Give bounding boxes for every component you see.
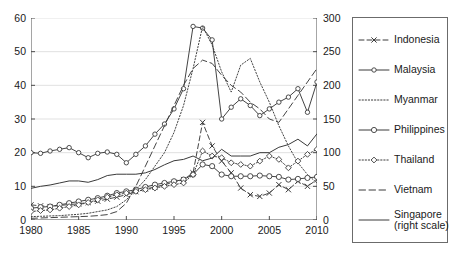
legend-marker-myanmar: [357, 91, 391, 109]
series-marker-philippines: [229, 174, 234, 179]
series-marker-malaysia: [86, 156, 90, 160]
y-axis-right-tick-label: 300: [323, 13, 351, 23]
legend-point: [372, 68, 376, 72]
legend-marker-philippines: [357, 121, 391, 139]
legend-label: Malaysia: [394, 64, 435, 76]
legend-item-myanmar[interactable]: Myanmar: [353, 85, 449, 115]
series-marker-malaysia: [153, 132, 157, 136]
y-axis-right-tick-label: 200: [323, 80, 351, 90]
series-marker-malaysia: [105, 150, 109, 154]
y-axis-left-tick-label: 0: [0, 215, 26, 225]
y-axis-left-tick-label: 50: [0, 46, 26, 56]
series-marker-thailand: [228, 160, 234, 166]
series-marker-indonesia: [210, 143, 215, 148]
legend-label: Singapore(right scale): [394, 209, 449, 231]
legend-label: Indonesia: [394, 34, 440, 46]
legend-item-vietnam[interactable]: Vietnam: [353, 175, 449, 205]
series-marker-malaysia: [239, 97, 243, 101]
series-marker-thailand: [266, 153, 272, 159]
y-axis-right-tick-label: 250: [323, 46, 351, 56]
y-axis-left-tick-label: 60: [0, 13, 26, 23]
y-axis-left-tick-label: 20: [0, 147, 26, 157]
legend-item-malaysia[interactable]: Malaysia: [353, 55, 449, 85]
series-marker-malaysia: [76, 150, 80, 154]
series-marker-philippines: [286, 177, 291, 182]
y-axis-right-tick-label: 150: [323, 114, 351, 124]
series-marker-malaysia: [229, 105, 233, 109]
legend-label: Philippines: [394, 124, 445, 136]
chart-root: IndonesiaMalaysiaMyanmarPhilippinesThail…: [0, 0, 452, 262]
series-marker-malaysia: [191, 24, 195, 28]
legend-item-thailand[interactable]: Thailand: [353, 145, 449, 175]
series-marker-malaysia: [267, 107, 271, 111]
series-marker-malaysia: [134, 152, 138, 156]
series-line-vietnam: [31, 60, 317, 218]
legend-point: [371, 127, 376, 132]
series-marker-philippines: [305, 175, 310, 180]
x-axis-tick-label: 1995: [154, 225, 194, 235]
series-marker-philippines: [267, 174, 272, 179]
legend-label-line2: (right scale): [394, 220, 449, 231]
y-axis-right-tick-label: 50: [323, 181, 351, 191]
y-axis-left-tick-label: 10: [0, 181, 26, 191]
series-marker-thailand: [314, 146, 317, 152]
x-axis-tick-label: 1990: [106, 225, 146, 235]
series-marker-malaysia: [31, 150, 33, 154]
series-marker-philippines: [238, 174, 243, 179]
faint-artifact-text: [105, 1, 345, 9]
x-axis-tick-label: 2005: [249, 225, 289, 235]
series-marker-malaysia: [277, 100, 281, 104]
series-marker-malaysia: [96, 151, 100, 155]
plot-area: [31, 18, 317, 220]
y-axis-left-tick-label: 30: [0, 114, 26, 124]
legend-label: Myanmar: [394, 94, 438, 106]
x-axis-tick-label: 1980: [11, 225, 51, 235]
legend-point: [371, 157, 377, 163]
legend-marker-malaysia: [357, 61, 391, 79]
legend-item-philippines[interactable]: Philippines: [353, 115, 449, 145]
legend-item-indonesia[interactable]: Indonesia: [353, 25, 449, 55]
series-marker-malaysia: [286, 95, 290, 99]
series-marker-malaysia: [115, 152, 119, 156]
series-marker-malaysia: [248, 103, 252, 107]
legend-marker-thailand: [357, 151, 391, 169]
legend-label: Vietnam: [394, 184, 432, 196]
legend-marker-singapore: [357, 211, 391, 229]
series-marker-indonesia: [286, 187, 291, 192]
series-marker-malaysia: [258, 113, 262, 117]
series-marker-indonesia: [267, 190, 272, 195]
series-marker-malaysia: [315, 80, 317, 84]
series-marker-malaysia: [143, 144, 147, 148]
x-axis-tick-label: 2010: [297, 225, 337, 235]
series-line-malaysia: [31, 26, 317, 162]
series-marker-malaysia: [38, 151, 42, 155]
y-axis-left-tick-label: 40: [0, 80, 26, 90]
series-marker-thailand: [257, 158, 263, 164]
series-marker-philippines: [257, 173, 262, 178]
y-axis-right-tick-label: 100: [323, 147, 351, 157]
series-marker-malaysia: [57, 147, 61, 151]
chart-canvas: [31, 18, 317, 220]
series-marker-malaysia: [124, 161, 128, 165]
legend-marker-vietnam: [357, 181, 391, 199]
chart-legend: IndonesiaMalaysiaMyanmarPhilippinesThail…: [352, 17, 448, 243]
legend-item-singapore[interactable]: Singapore(right scale): [353, 205, 449, 235]
x-axis-tick-label: 1985: [59, 225, 99, 235]
legend-marker-indonesia: [357, 31, 391, 49]
series-marker-malaysia: [219, 117, 223, 121]
series-marker-malaysia: [48, 149, 52, 153]
series-marker-thailand: [238, 162, 244, 168]
series-marker-philippines: [248, 174, 253, 179]
series-line-indonesia: [31, 122, 317, 206]
series-marker-philippines: [276, 174, 281, 179]
series-marker-malaysia: [296, 87, 300, 91]
x-axis-tick-label: 2000: [202, 225, 242, 235]
series-marker-thailand: [247, 163, 253, 169]
series-marker-malaysia: [305, 110, 309, 114]
series-marker-philippines: [314, 174, 317, 179]
series-marker-philippines: [200, 162, 205, 167]
legend-label: Thailand: [394, 154, 434, 166]
series-marker-philippines: [210, 164, 215, 169]
series-marker-malaysia: [67, 145, 71, 149]
series-marker-philippines: [219, 172, 224, 177]
